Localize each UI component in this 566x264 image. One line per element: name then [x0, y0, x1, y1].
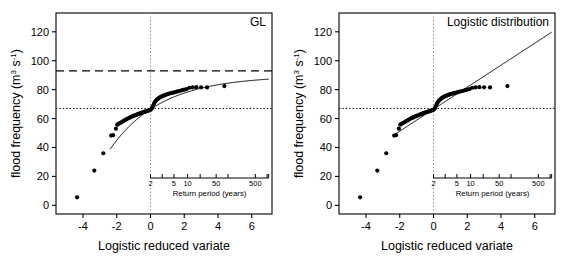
data-point — [488, 85, 492, 89]
x-tick-label--2: -2 — [395, 220, 405, 232]
data-point — [397, 127, 401, 131]
data-point — [205, 85, 209, 89]
y-tick-label-40: 40 — [320, 141, 332, 153]
x-tick-label--2: -2 — [112, 220, 122, 232]
data-point — [477, 85, 481, 89]
plot-frame — [339, 13, 555, 214]
return-period-label-500: 500 — [249, 179, 262, 188]
panel-title: Logistic distribution — [447, 15, 549, 29]
plot-frame — [56, 13, 272, 214]
y-axis: 020406080100120 — [314, 26, 339, 212]
data-point — [75, 195, 79, 199]
x-tick-label-4: 4 — [215, 220, 221, 232]
x-tick-label--4: -4 — [361, 220, 371, 232]
y-tick-label-80: 80 — [320, 84, 332, 96]
data-point — [505, 84, 509, 88]
x-tick-label-2: 2 — [181, 220, 187, 232]
x-axis-title: Logistic reduced variate — [98, 239, 230, 253]
return-period-axis: 251050500Return period (years) — [431, 174, 551, 198]
data-point — [199, 85, 203, 89]
y-tick-label-0: 0 — [43, 199, 49, 211]
data-point — [394, 133, 398, 137]
chart-svg-panel-logistic: -4-20246Logistic reduced variate02040608… — [283, 0, 566, 264]
y-tick-label-20: 20 — [320, 170, 332, 182]
panel-title: GL — [250, 15, 266, 29]
data-point — [222, 84, 226, 88]
y-tick-label-60: 60 — [37, 113, 49, 125]
x-axis-title: Logistic reduced variate — [381, 239, 513, 253]
data-point — [375, 169, 379, 173]
y-tick-label-100: 100 — [314, 55, 332, 67]
data-point — [358, 195, 362, 199]
return-period-label-5: 5 — [455, 179, 459, 188]
y-axis-title: flood frequency (m3 s-1) — [9, 49, 23, 178]
x-axis: -4-20246 — [78, 214, 255, 232]
y-tick-label-40: 40 — [37, 141, 49, 153]
logistic-fit — [393, 32, 552, 135]
return-period-label-50: 50 — [212, 179, 220, 188]
x-axis: -4-20246 — [361, 214, 538, 232]
data-point — [474, 85, 478, 89]
y-tick-label-120: 120 — [314, 26, 332, 38]
return-period-label-50: 50 — [495, 179, 503, 188]
data-point — [191, 85, 195, 89]
figure-root: -4-20246Logistic reduced variate02040608… — [0, 0, 566, 264]
y-tick-label-80: 80 — [37, 84, 49, 96]
x-tick-label-0: 0 — [147, 220, 153, 232]
return-period-label-2: 2 — [431, 179, 435, 188]
return-period-label-5: 5 — [172, 179, 176, 188]
return-period-label-500: 500 — [532, 179, 545, 188]
data-point — [482, 85, 486, 89]
x-tick-label--4: -4 — [78, 220, 88, 232]
return-period-axis-title: Return period (years) — [456, 189, 530, 198]
x-tick-label-6: 6 — [249, 220, 255, 232]
y-tick-label-120: 120 — [31, 26, 49, 38]
reference-lines — [56, 13, 272, 214]
y-axis: 020406080100120 — [31, 26, 56, 212]
data-point — [384, 151, 388, 155]
return-period-label-2: 2 — [148, 179, 152, 188]
y-tick-label-100: 100 — [31, 55, 49, 67]
chart-panel-logistic: -4-20246Logistic reduced variate02040608… — [283, 0, 566, 264]
x-tick-label-4: 4 — [498, 220, 504, 232]
x-tick-label-0: 0 — [430, 220, 436, 232]
data-point — [111, 133, 115, 137]
data-point — [194, 85, 198, 89]
x-tick-label-6: 6 — [532, 220, 538, 232]
data-point — [92, 169, 96, 173]
chart-panel-gl: -4-20246Logistic reduced variate02040608… — [0, 0, 283, 264]
data-point — [101, 151, 105, 155]
return-period-label-10: 10 — [183, 179, 191, 188]
y-tick-label-60: 60 — [320, 113, 332, 125]
return-period-axis-title: Return period (years) — [173, 189, 247, 198]
y-axis-title: flood frequency (m3 s-1) — [292, 49, 306, 178]
return-period-label-10: 10 — [466, 179, 474, 188]
return-period-axis: 251050500Return period (years) — [148, 174, 268, 198]
reference-lines — [339, 13, 555, 214]
y-tick-label-20: 20 — [37, 170, 49, 182]
y-tick-label-0: 0 — [326, 199, 332, 211]
x-tick-label-2: 2 — [464, 220, 470, 232]
data-point — [114, 127, 118, 131]
chart-svg-panel-gl: -4-20246Logistic reduced variate02040608… — [0, 0, 283, 264]
